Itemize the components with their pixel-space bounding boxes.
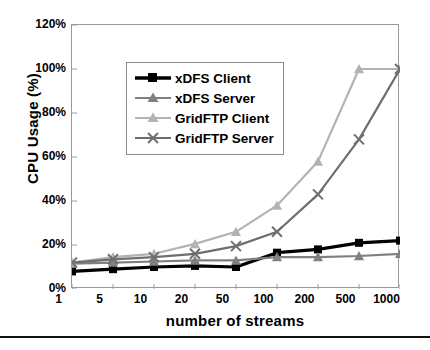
legend-item: xDFS Server bbox=[133, 88, 274, 108]
y-tick-label: 120% bbox=[22, 17, 66, 31]
legend-marker-triangle-icon bbox=[133, 109, 173, 127]
legend-label: xDFS Client bbox=[173, 71, 251, 86]
y-tick-label: 80% bbox=[22, 105, 66, 119]
y-tick-label: 60% bbox=[22, 149, 66, 163]
legend-item: xDFS Client bbox=[133, 68, 274, 88]
legend-marker-triangle-icon bbox=[133, 89, 173, 107]
legend-label: GridFTP Client bbox=[173, 111, 269, 126]
legend-item: GridFTP Client bbox=[133, 108, 274, 128]
cpu-usage-line-chart: CPU Usage (%) number of streams 0%20%40%… bbox=[0, 0, 430, 350]
y-tick-label: 20% bbox=[22, 237, 66, 251]
chart-legend: xDFS ClientxDFS ServerGridFTP ClientGrid… bbox=[126, 62, 284, 155]
y-tick-label: 40% bbox=[22, 193, 66, 207]
x-axis-title: number of streams bbox=[71, 312, 399, 329]
y-tick-label: 100% bbox=[22, 61, 66, 75]
legend-marker-x-icon bbox=[133, 129, 173, 147]
legend-label: GridFTP Server bbox=[173, 131, 274, 146]
legend-item: GridFTP Server bbox=[133, 128, 274, 148]
x-tick-label: 1000 bbox=[362, 292, 412, 306]
bottom-divider-rule bbox=[0, 336, 430, 338]
x-axis-tick-labels: 151020501002005001000 bbox=[0, 292, 430, 312]
legend-marker-square-icon bbox=[133, 69, 173, 87]
legend-label: xDFS Server bbox=[173, 91, 255, 106]
